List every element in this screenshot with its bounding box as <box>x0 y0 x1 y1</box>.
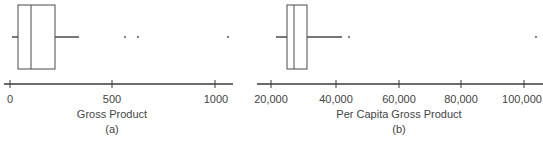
tick-label: 1000 <box>204 93 228 105</box>
box-b <box>276 5 342 69</box>
x-axis-title-b: Per Capita Gross Product <box>336 108 461 120</box>
boxplot-figure: 0 500 1000 Gross Product (a) 20,000 40,0… <box>0 0 543 142</box>
outlier-point <box>124 36 126 38</box>
tick-label: 40,000 <box>319 93 353 105</box>
boxplot-b: 20,000 40,000 60,000 80,000 100,000 Per … <box>254 5 543 135</box>
boxplot-a: 0 500 1000 Gross Product (a) <box>4 5 233 135</box>
tick-label: 500 <box>103 93 121 105</box>
x-axis-title-a: Gross Product <box>77 108 147 120</box>
outlier-point <box>535 36 537 38</box>
tick-label: 60,000 <box>382 93 416 105</box>
outliers-a <box>124 36 229 38</box>
x-axis-a <box>4 80 233 88</box>
tick-label: 0 <box>7 93 13 105</box>
x-axis-b <box>257 80 543 88</box>
tick-label: 80,000 <box>444 93 478 105</box>
caption-b: (b) <box>392 123 405 135</box>
outlier-point <box>227 36 229 38</box>
outlier-point <box>137 36 139 38</box>
box-a <box>12 5 79 69</box>
tick-label: 20,000 <box>254 93 288 105</box>
tick-label: 100,000 <box>502 93 542 105</box>
caption-a: (a) <box>105 123 118 135</box>
outlier-point <box>348 36 350 38</box>
iqr-box-b <box>287 5 307 69</box>
outliers-b <box>348 36 537 38</box>
iqr-box-a <box>18 5 55 69</box>
